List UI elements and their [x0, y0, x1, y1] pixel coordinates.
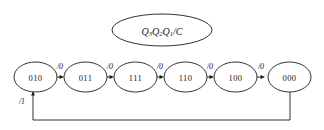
transition-arrow-011-111 — [107, 75, 114, 79]
transition-arrow-000-010-feedback — [31, 91, 290, 120]
legend-label: Q3Q2Q1/C — [142, 25, 183, 37]
transition-label-000-010: /1 — [18, 97, 25, 106]
state-diagram-svg: Q3Q2Q1/C — [0, 0, 324, 130]
state-node-000[interactable]: 000 — [268, 62, 311, 92]
legend-group: Q3Q2Q1/C — [112, 14, 212, 46]
arrow-head-icon — [160, 75, 165, 79]
state-node-111[interactable]: 111 — [114, 62, 157, 92]
state-label: 110 — [179, 73, 193, 83]
state-label: 010 — [29, 73, 43, 83]
state-label: 111 — [129, 73, 142, 83]
transition-arrow-100-000 — [257, 75, 265, 79]
state-diagram-canvas: Q3Q2Q1/C — [0, 0, 324, 130]
transition-arrow-111-110 — [157, 75, 164, 79]
transition-label-010-011: /0 — [56, 62, 63, 71]
transition-arrow-010-011 — [57, 75, 64, 79]
state-label: 100 — [229, 73, 243, 83]
transition-label-110-100: /0 — [206, 62, 213, 71]
state-label: 000 — [283, 73, 297, 83]
arrow-head-icon — [60, 75, 65, 79]
transition-label-011-111: /0 — [106, 62, 113, 71]
transition-label-100-000: /0 — [257, 62, 264, 71]
state-node-011[interactable]: 011 — [64, 62, 107, 92]
state-node-100[interactable]: 100 — [214, 62, 257, 92]
arrow-head-icon — [210, 75, 215, 79]
transition-arrow-110-100 — [207, 75, 214, 79]
arrow-head-icon — [261, 75, 266, 79]
transition-label-111-110: /0 — [156, 62, 163, 71]
state-label: 011 — [79, 73, 93, 83]
state-node-010[interactable]: 010 — [14, 62, 57, 92]
arrow-head-icon — [110, 75, 115, 79]
legend-output-c: /C — [172, 25, 183, 36]
state-node-110[interactable]: 110 — [164, 62, 207, 92]
